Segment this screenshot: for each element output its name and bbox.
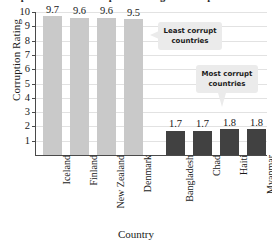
- y-tick: 5: [36, 84, 37, 85]
- callout-line-2: countries: [201, 79, 253, 89]
- y-tick-label: 8: [25, 35, 30, 46]
- x-tick-label: Bangladesh: [180, 155, 195, 202]
- callout-tail-left: [150, 31, 159, 39]
- y-tick-mark: [32, 141, 36, 142]
- bar-chart: Reported Data: Corruption Rating of Corr…: [0, 0, 272, 243]
- y-tick: 2: [36, 126, 37, 127]
- x-tick-label: Haiti: [234, 155, 249, 175]
- x-tick-label: Myanmar: [261, 155, 273, 194]
- y-tick: 7: [36, 55, 37, 56]
- y-axis-title: Corruption Rating: [10, 0, 22, 130]
- bar: 1.8Haiti: [220, 129, 239, 155]
- x-tick-label: Iceland: [57, 155, 72, 184]
- callout-line-2: countries: [163, 36, 217, 46]
- y-tick-mark: [32, 69, 36, 70]
- y-tick-label: 9: [25, 21, 30, 32]
- y-tick-label: 1: [25, 135, 30, 146]
- y-tick: 4: [36, 98, 37, 99]
- bar: 9.5Denmark: [124, 19, 143, 155]
- y-tick-label: 7: [25, 50, 30, 61]
- callout-line-1: Least corrupt: [163, 26, 217, 36]
- y-tick-mark: [32, 84, 36, 85]
- y-tick-mark: [32, 55, 36, 56]
- x-tick-label: Denmark: [138, 155, 153, 192]
- x-tick-label: Finland: [84, 155, 99, 186]
- y-tick: 3: [36, 112, 37, 113]
- bar-value-label: 1.8: [223, 118, 236, 129]
- callout-line-1: Most corrupt: [201, 69, 253, 79]
- y-tick-mark: [32, 41, 36, 42]
- bar: 1.7Bangladesh: [166, 131, 185, 155]
- bar: 1.7Chad: [193, 131, 212, 155]
- y-tick-label: 2: [25, 121, 30, 132]
- plot-area: 10987654321 9.7Iceland9.6Finland9.6New Z…: [36, 12, 267, 155]
- y-tick: 9: [36, 26, 37, 27]
- y-tick-label: 3: [25, 107, 30, 118]
- y-tick: 8: [36, 41, 37, 42]
- y-tick-mark: [32, 98, 36, 99]
- x-axis-title: Country: [0, 228, 272, 240]
- y-tick-label: 10: [20, 7, 31, 18]
- gridline: [36, 12, 267, 13]
- y-tick-label: 4: [25, 93, 30, 104]
- y-tick: 10: [36, 12, 37, 13]
- bar-value-label: 1.7: [196, 119, 209, 130]
- bar: 9.6Finland: [70, 18, 89, 155]
- bar-value-label: 9.6: [100, 6, 113, 17]
- y-tick-mark: [32, 26, 36, 27]
- y-tick: 6: [36, 69, 37, 70]
- y-tick-label: 5: [25, 78, 30, 89]
- callout-tail-down: [218, 93, 226, 107]
- bar: 9.7Iceland: [43, 16, 62, 155]
- y-tick-mark: [32, 112, 36, 113]
- least-corrupt-callout: Least corrupt countries: [158, 22, 222, 50]
- bar-value-label: 9.7: [46, 5, 59, 16]
- chart-title: Reported Data: Corruption Rating of Corr…: [0, 0, 272, 2]
- y-tick-mark: [32, 12, 36, 13]
- bar-value-label: 9.5: [127, 8, 140, 19]
- y-tick-mark: [32, 126, 36, 127]
- most-corrupt-callout: Most corrupt countries: [196, 65, 258, 93]
- bar-value-label: 9.6: [73, 6, 86, 17]
- x-tick-label: Chad: [207, 155, 222, 176]
- bar: 1.8Myanmar: [247, 129, 266, 155]
- y-tick: 1: [36, 141, 37, 142]
- bar: 9.6New Zealand: [97, 18, 116, 155]
- y-tick-label: 6: [25, 64, 30, 75]
- x-tick-label: New Zealand: [111, 155, 126, 209]
- bar-value-label: 1.8: [250, 118, 263, 129]
- bar-value-label: 1.7: [169, 119, 182, 130]
